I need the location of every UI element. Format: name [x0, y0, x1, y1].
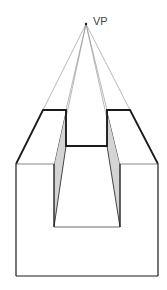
vanishing-point-marker — [85, 23, 87, 25]
diagram-canvas — [0, 0, 167, 290]
vanishing-point-label: VP — [93, 15, 108, 27]
